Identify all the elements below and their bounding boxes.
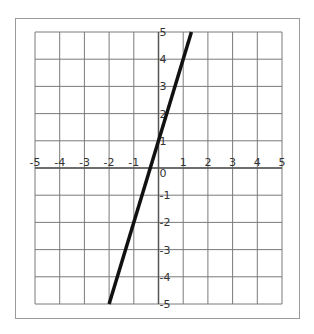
- y-tick-label: 0: [160, 167, 167, 180]
- x-tick-label: 3: [229, 156, 236, 169]
- y-tick-label: -3: [160, 244, 171, 257]
- x-tick-label: 1: [180, 156, 187, 169]
- line-chart: -5-4-3-2-112345 -5-4-3-2-1012345: [0, 0, 314, 334]
- x-tick-label: -2: [104, 156, 115, 169]
- y-tick-label: 4: [160, 53, 167, 66]
- x-tick-label: -3: [79, 156, 90, 169]
- y-tick-label: -1: [160, 189, 171, 202]
- x-tick-label: -4: [54, 156, 65, 169]
- x-tick-labels: -5-4-3-2-112345: [30, 156, 286, 169]
- y-tick-label: 5: [160, 26, 167, 39]
- x-tick-label: 2: [204, 156, 211, 169]
- x-tick-label: -5: [30, 156, 41, 169]
- x-tick-label: 4: [254, 156, 261, 169]
- y-tick-label: -5: [160, 298, 171, 311]
- x-tick-label: -1: [128, 156, 139, 169]
- axes: [35, 32, 282, 304]
- y-tick-label: 3: [160, 80, 167, 93]
- x-tick-label: 5: [279, 156, 286, 169]
- y-tick-label: -4: [160, 271, 171, 284]
- y-tick-label: -2: [160, 216, 171, 229]
